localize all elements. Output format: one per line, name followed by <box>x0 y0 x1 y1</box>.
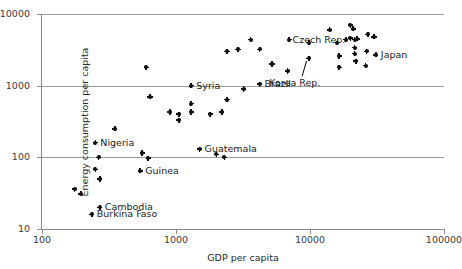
data-point <box>337 65 341 69</box>
x-axis-spine <box>42 229 444 230</box>
annotation-burkina-faso: Burkina Faso <box>97 210 158 220</box>
annotation-nigeria: Nigeria <box>100 138 134 148</box>
data-point <box>286 69 290 73</box>
data-point <box>98 177 102 181</box>
data-point <box>249 38 253 42</box>
data-point <box>354 59 358 63</box>
y-tick-1000: 1000 <box>37 86 42 87</box>
annotation-brazil: Brazil <box>265 79 292 89</box>
data-point <box>177 118 181 122</box>
data-point <box>242 87 246 91</box>
data-point-burkina-faso <box>90 212 94 216</box>
annotation-japan: Japan <box>381 50 408 60</box>
data-point <box>148 95 152 99</box>
data-point-japan <box>374 53 378 57</box>
data-point <box>97 155 101 159</box>
data-point <box>208 112 212 116</box>
data-point <box>222 155 226 159</box>
data-point <box>113 127 117 131</box>
x-tick-label-10000: 10000 <box>295 235 325 245</box>
data-point-nigeria <box>93 141 97 145</box>
data-point <box>351 27 355 31</box>
data-point-guatemala <box>198 147 202 151</box>
data-point-korea-rep <box>307 56 311 60</box>
y-axis-spine <box>41 14 42 229</box>
annotation-syria: Syria <box>196 81 220 91</box>
data-point <box>73 187 77 191</box>
data-point <box>355 37 359 41</box>
annotation-guatemala: Guatemala <box>205 144 257 154</box>
annotation-czech-rep: Czech Rep. <box>293 35 346 45</box>
data-point <box>189 102 193 106</box>
data-point <box>372 35 376 39</box>
data-point <box>365 49 369 53</box>
data-point <box>225 49 229 53</box>
data-point-brazil <box>258 82 262 86</box>
data-point <box>168 110 172 114</box>
y-tick-10000: 10000 <box>37 14 42 15</box>
data-point <box>189 110 193 114</box>
x-tick-label-100: 100 <box>33 235 51 245</box>
data-point <box>270 62 274 66</box>
gridline-y-100 <box>42 157 444 158</box>
data-point <box>353 46 357 50</box>
data-point <box>364 64 368 68</box>
x-axis-title: GDP per capita <box>42 252 444 263</box>
data-point <box>93 167 97 171</box>
leader-line-korea-rep <box>301 61 306 77</box>
y-tick-100: 100 <box>37 157 42 158</box>
data-point <box>353 52 357 56</box>
data-point-guinea <box>138 169 142 173</box>
y-axis-title: Energy consumption per capita <box>79 47 90 196</box>
data-point <box>220 110 224 114</box>
data-point <box>144 65 148 69</box>
gridline-y-10000 <box>42 14 444 15</box>
x-tick-label-100000: 100000 <box>426 235 462 245</box>
data-point <box>146 156 150 160</box>
annotation-guinea: Guinea <box>145 166 179 176</box>
data-point <box>366 32 370 36</box>
data-point <box>287 38 291 42</box>
data-point <box>236 47 240 51</box>
data-point <box>225 98 229 102</box>
data-point <box>140 151 144 155</box>
data-point <box>337 54 341 58</box>
data-point <box>258 47 262 51</box>
data-point <box>177 112 181 116</box>
y-axis-title-wrap: Energy consumption per capita <box>8 14 22 229</box>
data-point-syria <box>189 84 193 88</box>
x-tick-label-1000: 1000 <box>164 235 188 245</box>
data-point <box>328 28 332 32</box>
plot-area: 10100100010000 100100010000100000 Czech … <box>42 14 444 229</box>
